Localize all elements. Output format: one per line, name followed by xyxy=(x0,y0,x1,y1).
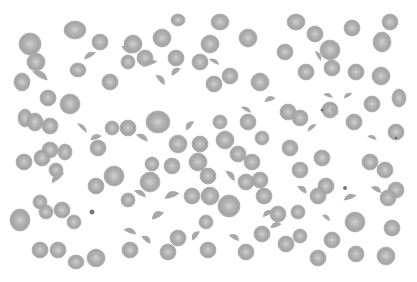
red-blood-cell xyxy=(122,242,138,258)
red-blood-cell xyxy=(377,162,393,178)
platelet-speck xyxy=(321,109,324,112)
red-blood-cell xyxy=(102,74,118,90)
red-blood-cell xyxy=(16,154,32,170)
red-blood-cell xyxy=(189,153,207,171)
red-blood-cell xyxy=(254,226,270,242)
red-blood-cell xyxy=(90,140,106,156)
red-blood-cell xyxy=(238,174,254,190)
red-blood-cell xyxy=(145,157,159,171)
red-blood-cell xyxy=(200,168,216,184)
red-blood-cell xyxy=(104,166,124,186)
red-blood-cell xyxy=(88,178,104,194)
red-blood-cell xyxy=(310,250,326,266)
red-blood-cell xyxy=(293,229,307,243)
red-blood-cell xyxy=(345,212,365,232)
red-blood-cell xyxy=(92,34,108,50)
red-blood-cell xyxy=(377,247,395,265)
red-blood-cell xyxy=(384,220,400,236)
red-blood-cell xyxy=(307,26,323,42)
red-blood-cell xyxy=(14,73,30,91)
red-blood-cell xyxy=(240,114,256,130)
red-blood-cell xyxy=(278,236,294,252)
red-blood-cell xyxy=(314,150,330,166)
red-blood-cell xyxy=(164,158,180,174)
red-blood-cell xyxy=(120,120,136,136)
smear-field xyxy=(0,0,417,282)
red-blood-cell xyxy=(201,35,219,53)
red-blood-cell xyxy=(348,64,364,80)
red-blood-cell xyxy=(60,94,80,114)
red-blood-cell xyxy=(121,193,135,207)
red-blood-cell xyxy=(153,29,171,47)
red-blood-cell xyxy=(292,162,308,178)
red-blood-cell xyxy=(140,172,160,192)
red-blood-cell xyxy=(170,230,186,246)
red-blood-cell xyxy=(392,89,406,107)
red-blood-cell xyxy=(121,55,135,69)
red-blood-cell xyxy=(54,202,70,218)
red-blood-cell xyxy=(298,64,314,80)
red-blood-cell xyxy=(169,135,187,153)
red-blood-cell xyxy=(310,188,326,204)
red-blood-cell xyxy=(19,33,41,55)
red-blood-cell xyxy=(58,144,72,160)
red-blood-cell xyxy=(256,188,272,204)
red-blood-cell xyxy=(344,20,360,36)
red-blood-cell xyxy=(222,68,238,84)
red-blood-cell xyxy=(244,154,260,170)
red-blood-cell xyxy=(382,14,398,30)
red-blood-cell xyxy=(200,242,216,258)
red-blood-cell xyxy=(292,110,308,126)
red-blood-cell xyxy=(348,246,364,262)
red-blood-cell xyxy=(372,67,390,85)
red-blood-cell xyxy=(218,195,240,217)
red-blood-cell xyxy=(252,172,268,188)
platelet-speck xyxy=(90,210,95,215)
red-blood-cell xyxy=(192,136,208,152)
red-blood-cell xyxy=(184,188,200,204)
red-blood-cell xyxy=(171,14,185,26)
red-blood-cell xyxy=(160,244,176,260)
red-blood-cell xyxy=(324,60,340,76)
red-blood-cell xyxy=(34,150,50,166)
platelet-speck xyxy=(343,186,347,190)
red-blood-cell xyxy=(105,121,119,135)
platelet-speck xyxy=(395,137,397,139)
red-blood-cell xyxy=(10,209,30,231)
red-blood-cell xyxy=(27,53,45,71)
red-blood-cell xyxy=(324,232,340,248)
red-blood-cell xyxy=(192,54,208,70)
red-blood-cell xyxy=(146,111,170,133)
red-blood-cell xyxy=(67,215,81,229)
red-blood-cell xyxy=(216,131,234,149)
red-blood-cell xyxy=(87,249,105,267)
red-blood-cell xyxy=(42,118,58,134)
red-blood-cell xyxy=(255,131,269,145)
red-blood-cell xyxy=(230,146,246,162)
red-blood-cell xyxy=(40,90,56,106)
red-blood-cell xyxy=(206,76,222,92)
red-blood-cell xyxy=(68,255,84,269)
red-blood-cell xyxy=(373,32,391,52)
red-blood-cell xyxy=(346,114,362,130)
red-blood-cell xyxy=(282,140,298,156)
red-blood-cell xyxy=(239,29,257,47)
red-blood-cell xyxy=(277,44,293,60)
red-blood-cell xyxy=(320,40,340,60)
red-blood-cell xyxy=(50,242,66,258)
red-blood-cell xyxy=(27,113,43,131)
red-blood-cell xyxy=(64,21,86,39)
red-blood-cell xyxy=(32,242,48,258)
red-blood-cell xyxy=(270,206,286,222)
red-blood-cell xyxy=(70,63,86,77)
red-blood-cell xyxy=(199,215,213,229)
blood-smear-image xyxy=(0,0,417,282)
red-blood-cell xyxy=(287,14,305,30)
red-blood-cell xyxy=(238,244,254,260)
red-blood-cell xyxy=(39,205,53,219)
red-blood-cell xyxy=(201,187,219,205)
red-blood-cell xyxy=(364,96,380,112)
red-blood-cell xyxy=(291,205,305,219)
red-blood-cell xyxy=(251,73,269,91)
red-blood-cell xyxy=(213,115,227,129)
